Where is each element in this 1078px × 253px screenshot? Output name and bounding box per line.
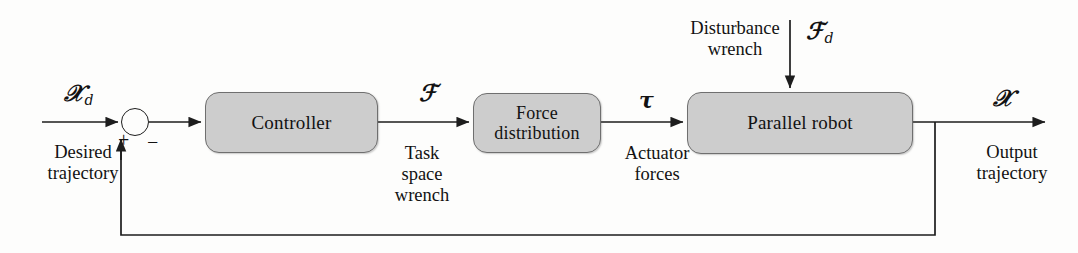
- block-diagram: + − Controller Force distribution Parall…: [0, 0, 1078, 253]
- block-parallel-robot-label: Parallel robot: [747, 112, 853, 133]
- symbol-actuator-forces: τ: [639, 88, 654, 113]
- summing-junction-minus-sign: −: [147, 131, 158, 154]
- symbol-task-space-wrench: ℱ: [419, 80, 437, 106]
- caption-disturbance-wrench: Disturbance wrench: [682, 18, 788, 60]
- caption-actuator-forces: Actuator forces: [603, 143, 711, 185]
- block-force-distribution-label: Force distribution: [494, 103, 579, 143]
- caption-disturbance-wrench-line2: wrench: [708, 39, 762, 59]
- caption-actuator-forces-line2: forces: [634, 164, 679, 184]
- caption-disturbance-wrench-line1: Disturbance: [690, 18, 779, 38]
- caption-output-trajectory-line2: trajectory: [977, 163, 1048, 183]
- symbol-output-trajectory: 𝒳: [993, 85, 1013, 111]
- block-parallel-robot[interactable]: Parallel robot: [687, 92, 913, 154]
- symbol-disturbance-wrench: ℱd: [806, 18, 833, 47]
- caption-actuator-forces-line1: Actuator: [625, 143, 690, 163]
- symbol-disturbance-wrench-base: ℱ: [806, 17, 824, 44]
- caption-task-space-wrench-line1: Task: [405, 143, 440, 163]
- symbol-reference-trajectory: 𝒳d: [64, 80, 93, 109]
- symbol-actuator-forces-base: τ: [639, 87, 654, 113]
- caption-task-space-wrench: Task space wrench: [373, 143, 471, 206]
- symbol-reference-subscript: d: [85, 92, 94, 108]
- block-force-distribution[interactable]: Force distribution: [473, 93, 601, 153]
- symbol-output-trajectory-base: 𝒳: [993, 84, 1013, 111]
- caption-desired-trajectory-line1: Desired: [54, 142, 112, 162]
- symbol-task-space-wrench-base: ℱ: [419, 79, 437, 106]
- caption-task-space-wrench-line3: wrench: [395, 185, 449, 205]
- block-force-distribution-line1: Force: [516, 103, 558, 123]
- caption-desired-trajectory-line2: trajectory: [48, 163, 119, 183]
- block-controller-label: Controller: [251, 112, 331, 133]
- symbol-disturbance-wrench-subscript: d: [825, 30, 834, 46]
- caption-desired-trajectory: Desired trajectory: [31, 142, 135, 184]
- caption-output-trajectory-line1: Output: [986, 142, 1037, 162]
- block-controller[interactable]: Controller: [205, 92, 378, 153]
- block-force-distribution-line2: distribution: [494, 123, 579, 143]
- caption-output-trajectory: Output trajectory: [957, 142, 1067, 184]
- symbol-reference-base: 𝒳: [64, 79, 84, 106]
- caption-task-space-wrench-line2: space: [401, 164, 442, 184]
